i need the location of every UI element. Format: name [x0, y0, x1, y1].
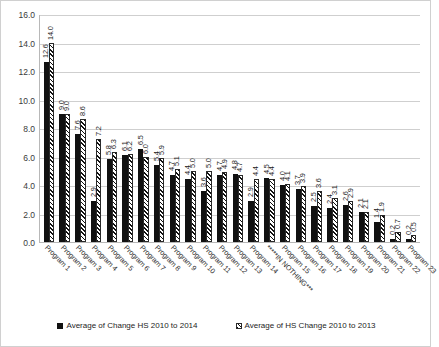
y-axis-tick-label: 16.0 [1, 10, 35, 20]
x-axis-tick: Program 10 [182, 245, 198, 311]
bar: 1.9 [380, 215, 385, 242]
bar: 4.7 [238, 175, 243, 242]
bar: 14.0 [49, 43, 54, 243]
bar-group: 2.62.9 [340, 15, 356, 242]
legend-item[interactable]: Average of Change HS 2010 to 2014 [57, 321, 197, 330]
bar: 5.0 [206, 171, 211, 242]
bar-value-label: 4.4 [251, 167, 260, 177]
legend-swatch [57, 323, 63, 329]
x-axis-tick: Program 19 [340, 245, 356, 311]
bar-group: 9.09.0 [57, 15, 73, 242]
y-axis-tick-label: 8.0 [1, 124, 35, 134]
y-axis-tick-label: 0.0 [1, 238, 35, 248]
y-axis-tick-label: 6.0 [1, 153, 35, 163]
bar-value-label: 6.0 [141, 144, 150, 154]
bar: 6.3 [112, 152, 117, 242]
bar-group: 4.04.1 [277, 15, 293, 242]
bar-value-label: 6.2 [125, 141, 134, 151]
bar-group: 0.20.7 [388, 15, 404, 242]
bar-group: 2.12.1 [356, 15, 372, 242]
bar-value-label: 7.2 [94, 127, 103, 137]
bar: 5.1 [175, 169, 180, 242]
bar-value-label: 3.1 [330, 185, 339, 195]
bar: 2.1 [364, 212, 369, 242]
bar-value-label: 5.0 [188, 158, 197, 168]
y-axis-tick-label: 14.0 [1, 39, 35, 49]
bar-value-label: 0.7 [393, 219, 402, 229]
bar: 5.9 [159, 158, 164, 242]
legend-swatch [236, 323, 242, 329]
bar-group: 5.45.9 [151, 15, 167, 242]
bar: 8.6 [80, 119, 85, 242]
bar: 3.9 [301, 186, 306, 242]
bar: 2.9 [348, 201, 353, 242]
x-axis-tick: Program 3 [72, 245, 88, 311]
legend-label: Average of HS Change 2010 to 2013 [245, 321, 376, 330]
bar: 0.7 [395, 232, 400, 242]
bar-group: 2.94.4 [246, 15, 262, 242]
bar-value-label: 4.1 [283, 171, 292, 181]
x-axis-tick: Program 2 [56, 245, 72, 311]
bar-value-label: 4.4 [267, 167, 276, 177]
bar-group: 4.75.1 [167, 15, 183, 242]
bar-value-label: 0.5 [409, 222, 418, 232]
x-axis-tick: Program 4 [87, 245, 103, 311]
bar-value-label: 8.6 [78, 107, 87, 117]
bar-value-label: 9.0 [62, 101, 71, 111]
bar-group: 2.53.6 [309, 15, 325, 242]
bar-group: 2.43.1 [325, 15, 341, 242]
bar-group: 4.84.7 [230, 15, 246, 242]
chart-legend: Average of Change HS 2010 to 2014Average… [1, 321, 432, 330]
bar-group: 3.65.0 [199, 15, 215, 242]
bar-value-label: 2.1 [361, 199, 370, 209]
bar: 6.2 [128, 154, 133, 242]
y-axis-tick-label: 10.0 [1, 96, 35, 106]
x-axis-tick: Program 21 [372, 245, 388, 311]
bar-value-label: 3.6 [314, 178, 323, 188]
bar-group: 12.614.0 [41, 15, 57, 242]
x-axis-tick: Program 23 [403, 245, 419, 311]
y-axis-tick-label: 12.0 [1, 67, 35, 77]
bar: 6.0 [143, 157, 148, 243]
bar: 7.2 [96, 139, 101, 242]
x-axis-tick: Program 13 [230, 245, 246, 311]
bar: 4.9 [222, 172, 227, 242]
x-axis-tick: Program 12 [214, 245, 230, 311]
bar-value-label: 5.1 [172, 157, 181, 167]
bar-group: 3.73.9 [293, 15, 309, 242]
bar: 5.0 [191, 171, 196, 242]
legend-label: Average of Change HS 2010 to 2014 [66, 321, 197, 330]
bar-group: 4.45.0 [183, 15, 199, 242]
bar-groups: 12.614.09.09.07.68.62.97.25.86.36.16.26.… [40, 15, 420, 242]
bar-group: 4.74.9 [214, 15, 230, 242]
bar: 4.1 [285, 184, 290, 242]
x-axis-tick: Program 18 [324, 245, 340, 311]
x-axis-tick: Program 17 [309, 245, 325, 311]
bar: 9.0 [65, 114, 70, 242]
bar: 3.6 [317, 191, 322, 242]
y-axis-tick-label: 2.0 [1, 210, 35, 220]
plot-area: 12.614.09.09.07.68.62.97.25.86.36.16.26.… [39, 15, 420, 243]
x-axis-tick: Program 22 [388, 245, 404, 311]
x-axis-tick: Program 15 [277, 245, 293, 311]
x-axis-tick: Program 6 [119, 245, 135, 311]
bar: 3.1 [332, 198, 337, 242]
bar-value-label: 4.9 [220, 160, 229, 170]
bar-value-label: 1.9 [377, 202, 386, 212]
x-axis-tick: Program 20 [356, 245, 372, 311]
x-axis-tick: Program 11 [198, 245, 214, 311]
bar: 0.5 [411, 235, 416, 242]
y-axis-tick-label: 4.0 [1, 181, 35, 191]
x-axis: Program 1Program 2Program 3Program 4Prog… [39, 245, 420, 311]
x-axis-tick: *****IN NOTHING*** [261, 245, 277, 311]
bar-value-label: 5.9 [157, 145, 166, 155]
bar: 4.4 [254, 179, 259, 242]
legend-item[interactable]: Average of HS Change 2010 to 2013 [236, 321, 376, 330]
bar-value-label: 2.9 [346, 188, 355, 198]
bar-group: 2.97.2 [88, 15, 104, 242]
bar-group: 6.16.2 [120, 15, 136, 242]
bar-group: 1.41.9 [372, 15, 388, 242]
bar-value-label: 5.0 [204, 158, 213, 168]
bar-group: 5.86.3 [104, 15, 120, 242]
